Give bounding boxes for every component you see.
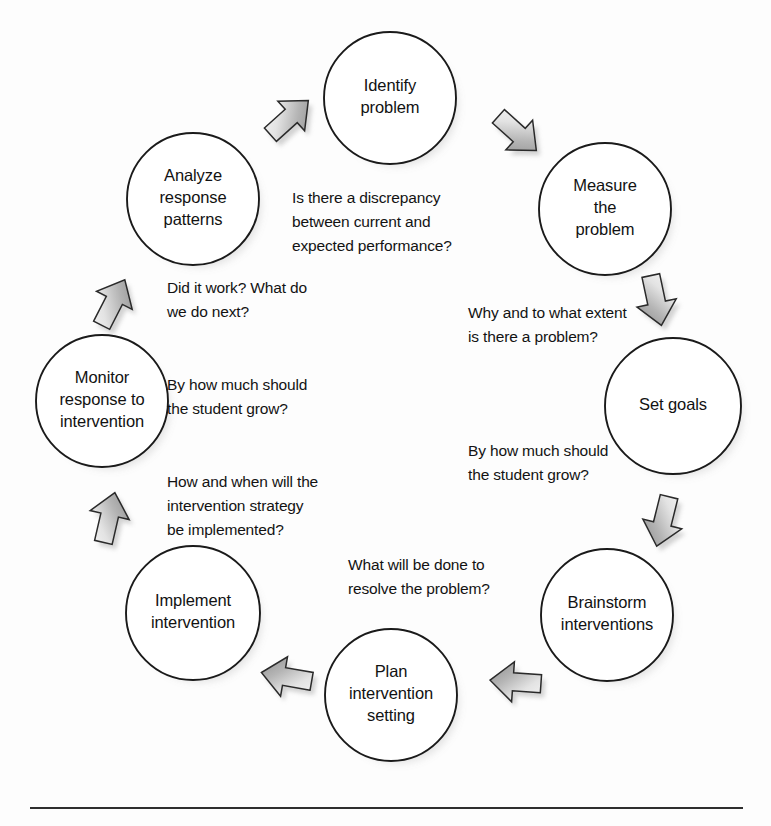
annotation-identify: Is there a discrepancybetween current an… [292,189,452,254]
node-label-line: Plan [375,662,408,680]
node-label-line: problem [576,220,635,238]
node-label-line: Implement [155,591,232,609]
arrow-identify-to-measure [485,101,550,165]
node-label-line: Measure [573,176,637,194]
cycle-diagram-svg: IdentifyproblemMeasuretheproblemSet goal… [0,0,771,826]
annotation-line: Did it work? What do [167,279,307,296]
node-label-line: interventions [561,615,653,633]
annotation-line: How and when will the [167,473,318,490]
arrow-identify-to-measure-group [485,101,550,165]
arrow-analyze-to-identify [257,86,322,150]
arrow-setgoals-to-brainstorm [637,492,688,551]
arrow-setgoals-to-brainstorm-group [637,492,688,551]
node-label-line: intervention [60,412,144,430]
arrow-implement-to-monitor [84,488,134,547]
annotation-line: be implemented? [167,521,284,538]
node-label-line: Brainstorm [568,593,647,611]
annotation-analyze: Did it work? What dowe do next? [166,279,307,320]
node-label-line: Monitor [75,368,130,386]
arrow-measure-to-setgoals [631,271,681,329]
annotation-line: the student grow? [167,400,288,417]
arrow-analyze-to-identify-group [257,86,322,150]
annotation-line: we do next? [166,303,249,320]
annotation-line: intervention strategy [167,497,304,514]
annotation-measure: Why and to what extentis there a problem… [468,304,628,345]
node-label-line: intervention [151,613,235,631]
node-label-line: Identify [364,76,417,94]
node-label-line: Analyze [164,166,222,184]
annotation-line: By how much should [167,376,307,393]
node-label-line: the [594,198,617,216]
node-label-set-goals: Set goals [639,395,707,413]
node-label-line: problem [361,98,420,116]
annotation-setgoals: By how much shouldthe student grow? [468,442,608,483]
annotation-implement: How and when will theintervention strate… [167,473,318,538]
node-label-line: response to [59,390,144,408]
cycle-diagram-canvas: IdentifyproblemMeasuretheproblemSet goal… [0,0,771,826]
annotation-line: By how much should [468,442,608,459]
node-label-line: response [159,188,226,206]
annotation-line: resolve the problem? [348,580,490,597]
annotation-brainstorm: What will be done toresolve the problem? [348,556,490,597]
annotation-line: between current and [292,213,430,230]
annotation-line: expected performance? [292,237,452,254]
node-label-line: patterns [164,210,223,228]
node-label-line: Set goals [639,395,707,413]
annotation-line: Why and to what extent [468,304,628,321]
arrow-measure-to-setgoals-group [631,271,681,329]
annotation-monitor: By how much shouldthe student grow? [167,376,307,417]
annotation-line: What will be done to [348,556,485,573]
annotation-line: Is there a discrepancy [292,189,441,206]
annotation-line: the student grow? [468,466,589,483]
node-label-line: setting [367,706,415,724]
annotation-line: is there a problem? [468,328,598,345]
arrow-implement-to-monitor-group [84,488,134,547]
node-label-line: intervention [349,684,433,702]
node-label-analyze-response-patterns: Analyzeresponsepatterns [159,166,226,228]
